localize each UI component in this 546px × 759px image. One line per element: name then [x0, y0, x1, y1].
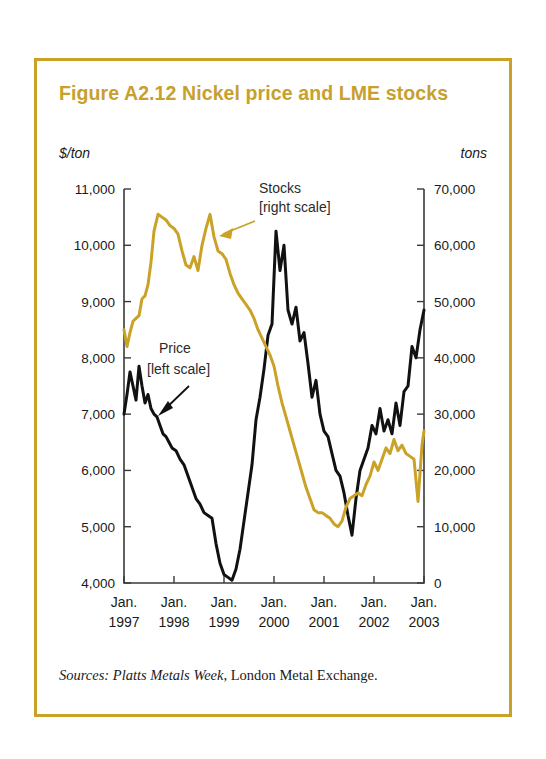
svg-text:20,000: 20,000 [434, 463, 475, 478]
svg-text:1998: 1998 [158, 614, 189, 630]
svg-text:Jan.: Jan. [211, 594, 237, 610]
svg-text:9,000: 9,000 [81, 295, 115, 310]
svg-text:6,000: 6,000 [81, 463, 115, 478]
price-annotation-line2: [left scale] [147, 361, 210, 377]
source-publication: Platts Metals Week [113, 667, 224, 683]
svg-text:8,000: 8,000 [81, 351, 115, 366]
source-rest: , London Metal Exchange. [223, 667, 377, 683]
svg-text:Jan.: Jan. [111, 594, 137, 610]
price-annotation-line1: Price [159, 340, 191, 356]
svg-text:Jan.: Jan. [311, 594, 337, 610]
svg-text:11,000: 11,000 [75, 182, 115, 197]
svg-text:1997: 1997 [108, 614, 139, 630]
figure-card: Figure A2.12 Nickel price and LME stocks… [34, 58, 512, 717]
svg-text:70,000: 70,000 [434, 182, 475, 197]
svg-text:Jan.: Jan. [411, 594, 437, 610]
svg-text:2001: 2001 [308, 614, 339, 630]
x-axis-tick-labels: Jan.1997Jan.1998Jan.1999Jan.2000Jan.2001… [108, 594, 439, 630]
chart-plot-area: 11,00010,0009,0008,0007,0006,0005,0004,0… [37, 61, 515, 720]
svg-text:Jan.: Jan. [261, 594, 287, 610]
svg-text:30,000: 30,000 [434, 407, 475, 422]
svg-text:1999: 1999 [208, 614, 239, 630]
svg-text:50,000: 50,000 [434, 295, 475, 310]
svg-text:7,000: 7,000 [81, 407, 115, 422]
left-axis-tick-labels: 11,00010,0009,0008,0007,0006,0005,0004,0… [74, 182, 115, 591]
svg-text:2002: 2002 [358, 614, 389, 630]
svg-text:10,000: 10,000 [434, 520, 475, 535]
svg-text:2000: 2000 [258, 614, 289, 630]
series-annotations: Stocks[right scale]Price[left scale] [147, 180, 331, 416]
svg-text:0: 0 [434, 576, 442, 591]
svg-text:2003: 2003 [408, 614, 439, 630]
stocks-annotation-arrowhead [219, 228, 233, 239]
right-axis-tick-labels: 70,00060,00050,00040,00030,00020,00010,0… [434, 182, 475, 591]
stocks-annotation-line2: [right scale] [259, 199, 331, 215]
svg-text:Jan.: Jan. [161, 594, 187, 610]
source-note: Sources: Platts Metals Week, London Meta… [59, 667, 378, 684]
svg-text:40,000: 40,000 [434, 351, 475, 366]
svg-text:4,000: 4,000 [81, 576, 115, 591]
svg-text:60,000: 60,000 [434, 238, 475, 253]
stocks-annotation-line1: Stocks [259, 180, 301, 196]
nickel-price-stocks-chart: 11,00010,0009,0008,0007,0006,0005,0004,0… [37, 61, 515, 720]
source-prefix: Sources: [59, 667, 109, 683]
data-series-group [124, 214, 424, 580]
svg-text:Jan.: Jan. [361, 594, 387, 610]
svg-text:5,000: 5,000 [81, 520, 115, 535]
svg-text:10,000: 10,000 [74, 238, 115, 253]
